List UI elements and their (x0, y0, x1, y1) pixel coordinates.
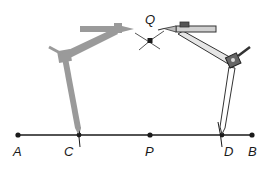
compass-icon (158, 22, 250, 134)
label-b: B (248, 145, 257, 158)
label-q: Q (145, 13, 155, 26)
label-a: A (13, 145, 22, 158)
point-p (147, 132, 152, 137)
label-c: C (64, 145, 73, 158)
point-b (249, 132, 254, 137)
label-p: P (145, 145, 154, 158)
point-c (77, 133, 82, 138)
point-q (148, 38, 153, 43)
diagram-canvas: A C P D B Q (0, 0, 274, 175)
compass-ghost-icon (49, 23, 134, 134)
point-a (15, 132, 20, 137)
label-d: D (224, 145, 233, 158)
